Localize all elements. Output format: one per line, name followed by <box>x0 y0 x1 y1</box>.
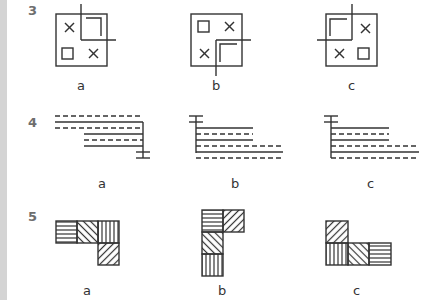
option-label: c <box>353 283 360 298</box>
q3-option-c-figure <box>317 4 377 66</box>
q5-option-b-figure <box>202 210 244 276</box>
question-number: 5 <box>28 209 37 224</box>
option-label: c <box>348 78 355 93</box>
q4-option-a-figure <box>55 116 150 158</box>
question-number: 3 <box>28 3 37 18</box>
q5-option-a-figure <box>56 221 119 265</box>
diagram-canvas <box>0 0 448 300</box>
q3-option-b-figure <box>191 14 251 76</box>
option-label: b <box>231 176 239 191</box>
option-label: a <box>83 283 91 298</box>
q4-option-b-figure <box>189 116 283 158</box>
q3-option-a-figure <box>56 4 116 66</box>
q4-option-c-figure <box>324 116 419 158</box>
q5-option-c-figure <box>326 221 391 265</box>
option-label: b <box>218 283 226 298</box>
option-label: b <box>212 78 220 93</box>
question-number: 4 <box>28 115 37 130</box>
option-label: a <box>98 176 106 191</box>
option-label: a <box>77 78 85 93</box>
option-label: c <box>367 176 374 191</box>
